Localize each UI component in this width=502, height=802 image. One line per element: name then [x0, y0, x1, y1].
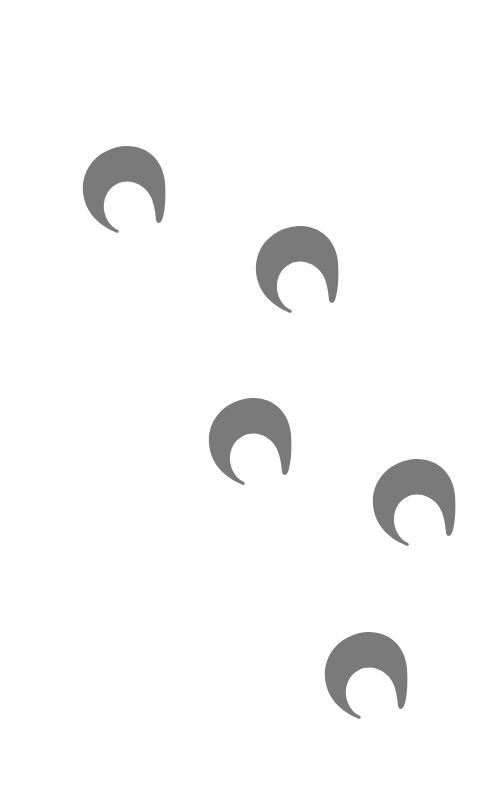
crescent-icon [371, 457, 457, 547]
crescent-5 [323, 630, 409, 720]
crescent-1 [81, 144, 167, 234]
crescent-2 [254, 224, 340, 314]
crescent-icon [207, 396, 293, 486]
crescent-3 [207, 396, 293, 486]
crescent-icon [323, 630, 409, 720]
crescent-4 [371, 457, 457, 547]
crescent-icon [254, 224, 340, 314]
crescent-icon [81, 144, 167, 234]
